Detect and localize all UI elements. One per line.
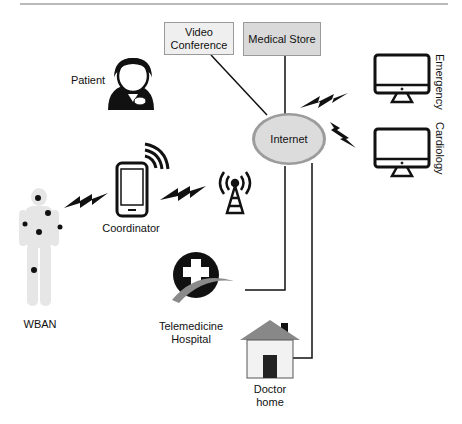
hospital-label-2: Hospital [148, 333, 234, 346]
hospital-label-1: Telemedicine [148, 320, 234, 333]
hospital-logo-icon [172, 252, 234, 303]
line-video-internet [211, 55, 267, 115]
connection-lines [211, 55, 312, 358]
emergency-monitor-icon [375, 55, 429, 102]
antenna-tower-icon [220, 172, 250, 213]
lightning-icon [300, 93, 348, 108]
hospital-label: Telemedicine Hospital [148, 320, 234, 346]
coordinator-label: Coordinator [96, 222, 166, 235]
video-conference-label-2: Conference [171, 39, 228, 52]
doctor-home-label-1: Doctor [240, 383, 300, 396]
medical-store-box: Medical Store [243, 22, 321, 56]
cardiology-label: Cardiology [434, 122, 446, 175]
wban-label: WBAN [18, 318, 62, 331]
doctor-home-label: Doctor home [240, 383, 300, 409]
coordinator-phone-icon [117, 144, 168, 216]
wban-body-icon [19, 188, 63, 306]
patient-label: Patient [66, 74, 110, 87]
lightning-icon [330, 122, 356, 148]
lightning-icon [160, 186, 206, 201]
video-conference-box: Video Conference [164, 22, 234, 55]
video-conference-label-1: Video [171, 26, 228, 39]
cardiology-monitor-icon [375, 129, 429, 176]
doctor-home-label-2: home [240, 396, 300, 409]
patient-icon [108, 58, 154, 110]
lightning-icon [64, 193, 108, 208]
doctor-home-icon [240, 320, 300, 378]
emergency-label: Emergency [434, 54, 446, 110]
diagram-canvas [0, 0, 462, 424]
internet-label: Internet [264, 133, 314, 146]
medical-store-label: Medical Store [248, 33, 315, 46]
